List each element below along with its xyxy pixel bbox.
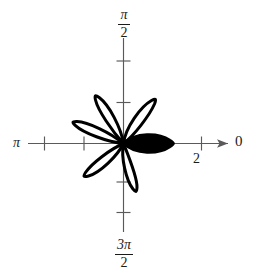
axis-label-three-half-pi: 3π 2 — [104, 238, 144, 270]
fraction-half-pi: π 2 — [118, 8, 129, 40]
fraction-numerator: 3π — [115, 238, 133, 255]
fraction-three-half-pi: 3π 2 — [115, 238, 133, 270]
axis-label-half-pi: π 2 — [108, 8, 140, 40]
axis-label-pi: π — [13, 136, 20, 150]
fraction-denominator: 2 — [115, 255, 133, 271]
fraction-numerator: π — [118, 8, 129, 25]
polar-plot-figure: π 2 3π 2 π 0 2 — [0, 0, 256, 280]
axis-group — [28, 38, 228, 232]
radial-tick-label-two: 2 — [193, 152, 200, 166]
rose-petal-240deg — [84, 144, 124, 177]
axis-label-zero: 0 — [235, 134, 243, 149]
fraction-denominator: 2 — [118, 25, 129, 41]
